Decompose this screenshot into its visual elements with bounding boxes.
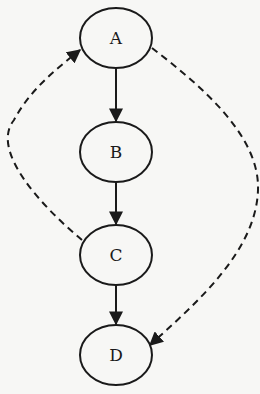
edge-a-d-dashed [150,48,258,345]
node-a: A [80,8,152,68]
node-d-label: D [109,345,123,365]
edge-c-a-dashed [8,50,82,240]
node-c-label: C [109,245,122,265]
graph-svg: A B C D [0,0,260,394]
node-a-label: A [109,28,123,48]
node-c: C [80,225,152,285]
diagram-canvas: A B C D [0,0,260,394]
node-b: B [80,122,152,182]
node-b-label: B [110,142,123,162]
node-d: D [80,325,152,385]
